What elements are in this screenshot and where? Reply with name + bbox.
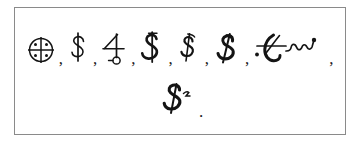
dollar-sign-symbol-2 bbox=[138, 30, 165, 72]
dollar-sign-symbol-3 bbox=[176, 31, 202, 71]
separator-comma: , bbox=[90, 50, 100, 67]
dollar-sign-symbol-1 bbox=[66, 31, 90, 71]
cursive-s-superscript-symbol bbox=[157, 80, 197, 124]
crossed-flourish-symbol bbox=[252, 29, 328, 73]
separator-comma: , bbox=[328, 50, 334, 67]
symbol-plate: , , , bbox=[0, 0, 363, 146]
separator-comma: , bbox=[165, 50, 175, 67]
symbol-line-2: . bbox=[15, 80, 345, 124]
jupiter-four-loop-symbol bbox=[100, 31, 128, 71]
separator-comma: , bbox=[202, 50, 212, 67]
separator-comma: , bbox=[242, 50, 252, 67]
separator-comma: , bbox=[56, 50, 66, 67]
dollar-sign-symbol-4 bbox=[212, 30, 242, 72]
separator-period: . bbox=[197, 102, 203, 122]
quartered-circle-with-dots-symbol bbox=[26, 34, 56, 68]
separator-comma: , bbox=[128, 50, 138, 67]
plate-frame-border: , , , bbox=[14, 7, 346, 135]
symbol-line-1: , , , bbox=[15, 28, 345, 74]
